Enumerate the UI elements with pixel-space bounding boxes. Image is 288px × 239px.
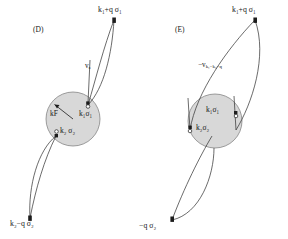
vertex-e-outer-bottom: [170, 217, 174, 222]
propagator-e-long-d: [172, 148, 214, 220]
panel-label-e: (E): [175, 26, 185, 34]
label-e-interaction-exchange: −vk₁−k₂−q: [198, 62, 222, 70]
propagator-d-lower-inner: [30, 136, 56, 218]
label-e-outgoing-bottom: −q σ₂: [139, 222, 156, 230]
figure-canvas: .ln{fill:none;stroke:#3a3a3a;stroke-widt…: [0, 0, 288, 239]
label-e-interaction-subscript: k₁−k₂−q: [206, 64, 222, 69]
label-e-inner-state-1: k₁σ₁: [206, 106, 219, 114]
label-d-inner-state-2: k₂ σ₂: [60, 127, 75, 135]
vertex-e-inner-right-open: [234, 114, 238, 118]
panel-d-graphics: [28, 18, 116, 221]
vertex-d-inner-top: [86, 101, 89, 104]
fermi-sphere-e: [188, 94, 242, 148]
vertex-e-outer-top: [253, 18, 257, 23]
label-d-inner-state-1: k₁σ₁: [79, 110, 92, 118]
label-d-outgoing-bottom: k₂−q σ₂: [10, 220, 34, 228]
label-e-interaction-prefix: −v: [198, 61, 206, 69]
panel-label-d: (D): [33, 26, 43, 34]
diagram-vector-layer: .ln{fill:none;stroke:#3a3a3a;stroke-widt…: [0, 0, 288, 239]
propagator-d-upper-outer: [88, 20, 114, 105]
vertex-d-outer-top: [112, 18, 116, 23]
label-d-fermi-momentum: kF: [50, 110, 58, 117]
vertex-d-inner-top-open: [86, 105, 90, 109]
vertex-d-inner-bottom: [55, 134, 58, 137]
label-d-outgoing-top: k₁+q σ₁: [98, 6, 122, 14]
vertex-e-inner-left: [188, 126, 191, 129]
label-e-outgoing-top: k₁+q σ₁: [232, 6, 256, 14]
propagator-e-long-c: [172, 136, 212, 220]
label-e-inner-state-2: k₂σ₂: [196, 124, 209, 132]
panel-e-graphics: [170, 18, 259, 222]
vertex-d-inner-bottom-open: [55, 130, 59, 134]
vertex-e-inner-left-open: [188, 129, 192, 133]
label-d-interaction-vq: vₓ: [85, 63, 91, 70]
